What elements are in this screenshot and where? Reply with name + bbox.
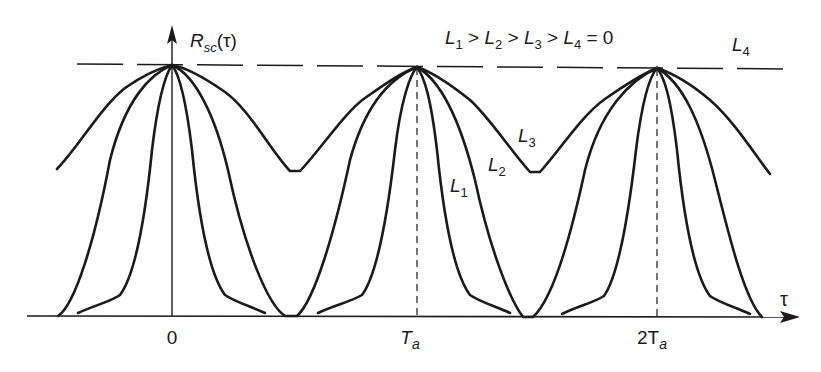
autocorrelation-diagram: Rsc(τ) L1 > L2 > L3 > L4 = 0 L4 L3 L2 L1… — [0, 0, 821, 372]
curve-l1-left-1 — [318, 67, 417, 313]
curve-l1-left-0 — [78, 65, 172, 313]
x-axis — [27, 311, 800, 323]
y-axis-label: Rsc(τ) — [190, 30, 237, 55]
condition-annotation: L1 > L2 > L3 > L4 = 0 — [445, 27, 613, 52]
x-tick-ta: Ta — [400, 327, 420, 352]
label-l3: L3 — [518, 125, 536, 150]
label-l2: L2 — [488, 154, 506, 179]
curve-l1-left-2 — [562, 68, 657, 314]
x-tick-0: 0 — [167, 327, 178, 348]
label-l4: L4 — [732, 34, 750, 59]
x-axis-label: τ — [780, 288, 788, 310]
x-tick-2ta: 2Ta — [637, 327, 667, 352]
label-l1: L1 — [450, 175, 468, 200]
curve-l1-right-2 — [657, 68, 750, 314]
curve-l1-right-0 — [172, 65, 265, 313]
